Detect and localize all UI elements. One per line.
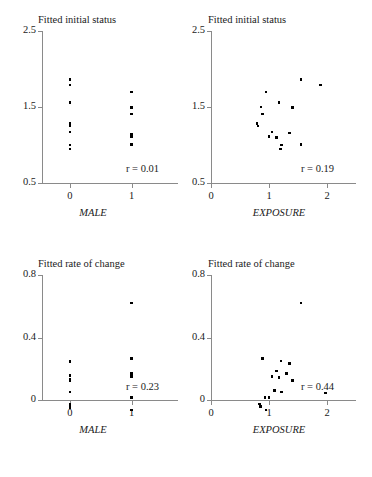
data-point (130, 135, 133, 138)
y-tick (38, 107, 42, 108)
data-point (271, 131, 274, 134)
data-point (271, 375, 274, 378)
y-tick-label: 2.5 (169, 25, 205, 35)
data-point (69, 406, 72, 409)
data-point (268, 396, 271, 399)
x-tick-label: 1 (249, 408, 289, 418)
data-point (69, 78, 72, 81)
panel-title: Fitted initial status (208, 14, 286, 25)
data-point (130, 143, 133, 146)
data-point (278, 376, 281, 379)
data-point (291, 379, 294, 382)
data-point (130, 113, 133, 116)
data-point (130, 409, 133, 412)
data-point (69, 379, 72, 382)
data-point (130, 91, 133, 94)
x-axis-line (211, 183, 356, 184)
x-tick (327, 401, 328, 405)
data-point (260, 106, 263, 109)
correlation-annotation: r = 0.44 (301, 381, 334, 392)
panel-title: Fitted rate of change (38, 258, 125, 269)
data-point (69, 144, 72, 147)
x-axis-title: MALE (0, 207, 186, 218)
data-point (319, 84, 322, 87)
panel-bottom-right: Fitted rate of change00.40.8012EXPOSUREr… (186, 239, 372, 477)
x-tick (269, 184, 270, 188)
x-tick (70, 184, 71, 188)
y-tick-label: 0.5 (0, 177, 36, 187)
data-point (275, 136, 278, 139)
data-point (130, 357, 133, 360)
data-point (69, 360, 72, 363)
x-tick-label: 0 (50, 408, 90, 418)
y-axis-line (42, 275, 43, 400)
y-axis-line (211, 31, 212, 183)
y-axis-line (42, 31, 43, 183)
x-tick-label: 0 (50, 191, 90, 201)
data-point (264, 396, 267, 399)
x-tick-label: 2 (307, 408, 347, 418)
y-tick (38, 31, 42, 32)
x-tick-label: 2 (307, 191, 347, 201)
panel-title: Fitted initial status (38, 14, 116, 25)
data-point (300, 143, 303, 146)
data-point (300, 302, 303, 305)
data-point (261, 357, 264, 360)
x-tick (211, 401, 212, 405)
data-point (278, 101, 281, 104)
y-tick (38, 338, 42, 339)
data-point (69, 84, 72, 87)
y-tick (38, 183, 42, 184)
y-axis-line (211, 275, 212, 400)
x-axis-line (211, 400, 356, 401)
data-point (273, 389, 276, 392)
data-point (130, 302, 133, 305)
data-point (279, 148, 282, 151)
data-point (261, 113, 264, 116)
panel-bottom-left: Fitted rate of change00.40.801MALEr = 0.… (0, 239, 186, 477)
data-point (268, 135, 271, 138)
x-tick-label: 0 (191, 191, 231, 201)
y-tick (207, 338, 211, 339)
plot-area-bottom-right: Fitted rate of change00.40.8012EXPOSUREr… (186, 239, 372, 477)
x-tick-label: 1 (249, 191, 289, 201)
y-tick-label: 0.8 (0, 269, 36, 279)
data-point (288, 132, 291, 135)
y-tick-label: 0.4 (169, 332, 205, 342)
data-point (130, 106, 133, 109)
y-tick (38, 400, 42, 401)
x-tick (327, 184, 328, 188)
x-tick (132, 401, 133, 405)
correlation-annotation: r = 0.19 (301, 163, 334, 174)
correlation-annotation: r = 0.01 (126, 163, 159, 174)
data-point (130, 375, 133, 378)
plot-area-top-left: Fitted initial status0.51.52.501MALEr = … (0, 0, 186, 238)
plot-area-top-right: Fitted initial status0.51.52.5012EXPOSUR… (186, 0, 372, 238)
data-point (69, 125, 72, 128)
x-tick (211, 184, 212, 188)
data-point (259, 405, 262, 408)
y-tick (207, 31, 211, 32)
x-axis-title: EXPOSURE (186, 207, 372, 218)
data-point (69, 391, 72, 394)
y-tick-label: 0 (169, 394, 205, 404)
data-point (69, 101, 72, 104)
scatterplot-figure: Fitted initial status0.51.52.501MALEr = … (0, 0, 372, 477)
x-axis-line (42, 183, 178, 184)
data-point (288, 362, 291, 365)
data-point (300, 78, 303, 81)
y-tick (207, 275, 211, 276)
correlation-annotation: r = 0.23 (126, 381, 159, 392)
data-point (280, 144, 283, 147)
y-tick (207, 107, 211, 108)
y-tick (38, 275, 42, 276)
x-tick-label: 0 (191, 408, 231, 418)
y-tick-label: 2.5 (0, 25, 36, 35)
data-point (280, 360, 283, 363)
data-point (280, 391, 283, 394)
data-point (324, 392, 327, 395)
data-point (265, 91, 268, 94)
x-axis-title: MALE (0, 424, 186, 435)
x-tick (132, 184, 133, 188)
y-tick-label: 0.4 (0, 332, 36, 342)
